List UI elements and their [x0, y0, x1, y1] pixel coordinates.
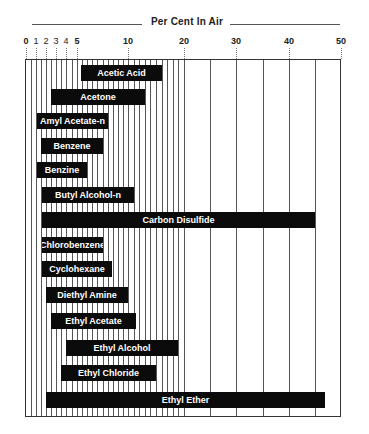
title-rule-left [32, 24, 142, 25]
x-tick-label: 3 [53, 36, 58, 46]
range-bar: Ethyl Acetate [51, 313, 136, 329]
chart-title: Per Cent In Air [150, 16, 224, 27]
range-bar: Acetic Acid [81, 65, 162, 81]
x-tick-mark [128, 48, 129, 59]
x-tick-label: 2 [43, 36, 48, 46]
range-bar: Acetone [51, 89, 145, 105]
range-bar: Diethyl Amine [46, 287, 128, 303]
x-tick-label: 10 [123, 36, 133, 46]
bar-label: Chlorobenzene [42, 240, 103, 250]
flammability-range-chart: Per Cent In Air 0123451020304050 Acetic … [0, 0, 369, 434]
x-tick-mark [56, 48, 57, 59]
bar-label: Ethyl Alcohol [93, 343, 150, 353]
x-tick-mark [289, 48, 290, 59]
bar-label: Amyl Acetate-n [40, 116, 105, 126]
x-tick-label: 0 [23, 36, 28, 46]
x-tick-label: 5 [74, 36, 79, 46]
bar-label: Benzene [53, 141, 90, 151]
range-bar: Chlorobenzene [42, 237, 103, 253]
bar-label: Acetic Acid [97, 68, 146, 78]
x-tick-mark [77, 48, 78, 59]
x-tick-mark [66, 48, 67, 59]
bar-label: Acetone [80, 92, 116, 102]
bar-label: Ethyl Acetate [65, 316, 122, 326]
x-tick-mark [341, 48, 342, 59]
bar-label: Cyclohexane [49, 264, 105, 274]
x-tick-mark [236, 48, 237, 59]
bar-label: Benzine [45, 165, 80, 175]
x-tick-label: 4 [63, 36, 68, 46]
range-bar: Cyclohexane [42, 261, 112, 277]
x-tick-mark [36, 48, 37, 59]
range-bar: Ethyl Alcohol [66, 340, 178, 356]
range-bar: Ethyl Chloride [61, 365, 156, 381]
range-bar: Benzene [41, 138, 103, 154]
x-tick-label: 1 [33, 36, 38, 46]
x-tick-label: 20 [179, 36, 189, 46]
range-bar: Ethyl Ether [46, 392, 325, 408]
x-tick-label: 30 [231, 36, 241, 46]
bar-label: Carbon Disulfide [142, 215, 214, 225]
x-tick-mark [184, 48, 185, 59]
bar-label: Butyl Alcohol-n [55, 190, 121, 200]
x-tick-label: 40 [284, 36, 294, 46]
x-tick-label: 50 [336, 36, 346, 46]
bar-label: Diethyl Amine [57, 290, 117, 300]
title-rule-right [230, 24, 340, 25]
bar-label: Ethyl Chloride [78, 368, 139, 378]
bar-label: Ethyl Ether [162, 395, 210, 405]
range-bar: Butyl Alcohol-n [42, 187, 134, 203]
x-tick-mark [26, 48, 27, 59]
range-bar: Carbon Disulfide [42, 212, 315, 228]
x-tick-mark [46, 48, 47, 59]
range-bar: Benzine [37, 162, 87, 178]
range-bar: Amyl Acetate-n [37, 113, 108, 129]
